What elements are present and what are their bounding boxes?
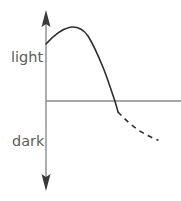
axis-label-dark: dark xyxy=(12,133,45,149)
figure-root: light dark xyxy=(0,0,181,201)
response-curve-solid xyxy=(46,27,118,112)
response-curve-dashed xyxy=(118,112,159,140)
light-dark-curve-svg: light dark xyxy=(0,0,181,201)
axis-label-light: light xyxy=(11,49,43,65)
